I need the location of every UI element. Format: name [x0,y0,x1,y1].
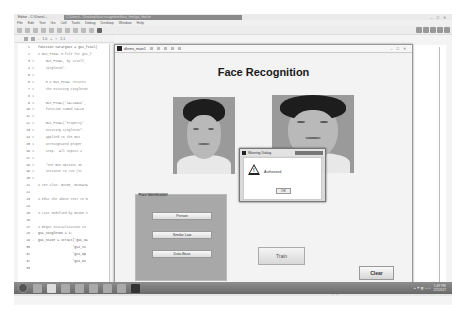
code-line[interactable]: 1function varargout = gui_final( [18,44,109,51]
media-player-icon[interactable] [61,284,70,293]
layout-left-icon[interactable] [430,27,436,33]
code-line[interactable]: 30 'gui_Si [18,244,109,251]
app-icon-3[interactable] [117,284,126,293]
menu-window[interactable]: Window [119,21,132,25]
ok-button[interactable]: OK [276,188,291,194]
code-line[interactable]: 25% Last Modified by GUIDE v [18,209,109,216]
figure-tool-save-icon[interactable] [164,47,167,50]
clear-button[interactable]: Clear [359,266,394,280]
menu-debug[interactable]: Debug [85,21,96,25]
zoom-value-1[interactable]: 1.0 [42,37,47,41]
code-line[interactable]: 7% the existing singleton [18,85,109,92]
code-line[interactable]: 16% stop. All inputs a [18,147,109,154]
app-icon-1[interactable] [89,284,98,293]
undo-icon[interactable] [65,28,70,33]
layout-top-icon[interactable] [437,27,443,33]
code-line[interactable]: 29-gui_State = struct('gui_Na [18,237,109,244]
code-line[interactable]: 24 [18,202,109,209]
menu-go[interactable]: Go [51,21,56,25]
code-line[interactable]: 32 'gui_Ou [18,258,109,265]
matlab-icon[interactable] [131,284,140,293]
ie-icon[interactable] [33,284,42,293]
code-line[interactable]: 11% [18,113,109,120]
code-line[interactable]: 33 [18,265,109,272]
figure-close-button[interactable]: ✕ [403,46,406,51]
clock[interactable]: 1:49 PM 2/2/2017 [434,284,446,292]
code-line[interactable]: 18% *See GUI Options on [18,161,109,168]
code-line[interactable]: 14% applied to the GUI [18,134,109,141]
copy-icon[interactable] [49,28,54,33]
code-line[interactable]: 4% singleton*. [18,65,109,72]
redo-icon[interactable] [73,28,78,33]
code-line[interactable]: 10% function named CALLB [18,106,109,113]
layout-tile-icon[interactable] [416,27,422,33]
figure-tool-zoom-icon[interactable] [178,47,181,50]
code-line[interactable]: 19% instance to run (si [18,168,109,175]
code-line[interactable]: 3% GUI_FINAL, by itself, [18,58,109,65]
layout-float-icon[interactable] [444,27,450,33]
database-button[interactable]: Data Base [152,250,212,258]
tray-icons[interactable]: ▴ ⚑ ◧ ▭ ◐ [414,286,430,290]
code-line[interactable]: 8% [18,92,109,99]
start-button[interactable] [18,283,28,293]
code-editor[interactable]: 1function varargout = gui_final(2% GUI_F… [18,44,110,284]
line-marker[interactable]: % [32,73,38,77]
code-line[interactable]: 12% GUI_FINAL('Property' [18,120,109,127]
cut-icon[interactable] [41,28,46,33]
code-line[interactable]: 27% Begin initialization co [18,223,109,230]
menu-tools[interactable]: Tools [72,21,80,25]
figure-maximize-button[interactable]: □ [397,46,399,51]
minimize-button[interactable]: – [430,15,432,20]
print-icon[interactable] [81,28,86,33]
code-line[interactable]: 5% [18,72,109,79]
explorer-icon[interactable] [47,284,56,293]
open-file-icon[interactable] [25,28,30,33]
find-icon[interactable] [89,28,94,33]
code-line[interactable]: 31 'gui_Op [18,251,109,258]
zoom-minus-button[interactable]: - [38,37,39,41]
line-marker[interactable]: % [32,156,38,160]
figure-minimize-button[interactable]: – [390,46,392,51]
person-button[interactable]: Person [152,212,212,220]
layout-split-icon[interactable] [423,27,429,33]
code-line[interactable]: 28-gui_Singleton = 1; [18,230,109,237]
line-marker[interactable]: % [32,114,38,118]
chrome-icon[interactable] [75,284,84,293]
paste-icon[interactable] [57,28,62,33]
run-icon[interactable] [97,28,102,33]
menu-edit[interactable]: Edit [28,21,34,25]
dialog-window-controls[interactable] [295,151,323,155]
code-line[interactable]: 13% existing singleton*. [18,127,109,134]
zoom-value-2[interactable]: 1.1 [60,37,65,41]
code-line[interactable]: 26 [18,216,109,223]
menu-desktop[interactable]: Desktop [101,21,114,25]
figure-tool-print-icon[interactable] [171,47,174,50]
code-line[interactable]: 20% [18,175,109,182]
train-button[interactable]: Train [258,247,305,265]
save-icon[interactable] [33,28,38,33]
figure-tool-new-icon[interactable] [150,47,153,50]
eval-cell-icon[interactable] [31,37,35,41]
vertical-scrollbar[interactable] [439,47,442,283]
maximize-button[interactable]: □ [437,15,439,20]
cell-icon[interactable] [24,37,28,41]
menu-help[interactable]: Help [137,21,144,25]
code-line[interactable]: 21% See also: GUIDE, GUIDATA [18,182,109,189]
code-line[interactable]: 22 [18,189,109,196]
line-marker[interactable]: % [32,94,38,98]
code-line[interactable]: 17% [18,154,109,161]
new-file-icon[interactable] [17,28,22,33]
line-marker[interactable]: % [32,176,38,180]
similar-law-button[interactable]: Similar Law [152,231,212,239]
code-line[interactable]: 15% unrecognized proper [18,140,109,147]
code-line[interactable]: 9% GUI_FINAL('CALLBACK', [18,99,109,106]
menu-file[interactable]: File [17,21,23,25]
menu-cell[interactable]: Cell [60,21,66,25]
code-line[interactable]: 6% H = GUI_FINAL returns [18,78,109,85]
code-line[interactable]: 2% GUI_FINAL M-file for gui_f [18,51,109,58]
zoom-plus-button[interactable]: + [50,37,52,41]
app-icon-2[interactable] [103,284,112,293]
menu-text[interactable]: Text [39,21,46,25]
code-line[interactable]: 23% Edit the above text to m [18,196,109,203]
zoom-divide-button[interactable]: ÷ [55,37,57,41]
